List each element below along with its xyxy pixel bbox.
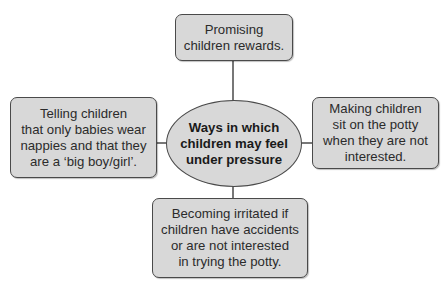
branch-left-box: Telling children that only babies wear n… xyxy=(10,97,157,178)
branch-top-text: Promising children rewards. xyxy=(184,22,284,54)
branch-bottom-text: Becoming irritated if children have acci… xyxy=(161,206,299,270)
branch-right-text: Making children sit on the potty when th… xyxy=(323,101,428,165)
branch-bottom-box: Becoming irritated if children have acci… xyxy=(152,198,308,278)
branch-left-text: Telling children that only babies wear n… xyxy=(20,106,146,170)
center-text: Ways in which children may feel under pr… xyxy=(180,120,288,168)
branch-right-box: Making children sit on the potty when th… xyxy=(312,97,439,169)
branch-top-box: Promising children rewards. xyxy=(175,14,293,61)
center-ellipse: Ways in which children may feel under pr… xyxy=(166,100,302,187)
